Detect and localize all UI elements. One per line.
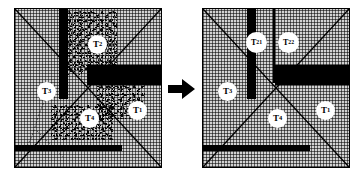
region-label-T21: T21 bbox=[246, 32, 267, 53]
region-label-T22: T22 bbox=[278, 32, 299, 53]
right-arrow-icon bbox=[168, 79, 196, 99]
vertical-bar bbox=[59, 9, 68, 99]
region-label-T1: T1 bbox=[316, 101, 335, 120]
region-label-T3: T3 bbox=[218, 82, 237, 101]
region-label-T4: T4 bbox=[80, 109, 99, 128]
figure-container: T2 T3 T1 T4 T21 T22 T3 T1 T4 bbox=[0, 0, 364, 178]
region-label-T3: T3 bbox=[37, 82, 56, 101]
horizontal-bar-middle bbox=[275, 65, 350, 85]
horizontal-bar-bottom bbox=[15, 145, 122, 151]
after-partition-panel: T21 T22 T3 T1 T4 bbox=[202, 8, 350, 168]
region-label-T1: T1 bbox=[128, 101, 147, 120]
before-partition-panel: T2 T3 T1 T4 bbox=[14, 8, 162, 168]
vertical-bar-thick bbox=[247, 9, 256, 99]
region-label-T2: T2 bbox=[88, 35, 107, 54]
horizontal-bar-middle bbox=[87, 65, 162, 85]
region-label-T4: T4 bbox=[268, 109, 287, 128]
horizontal-bar-bottom bbox=[203, 145, 310, 151]
